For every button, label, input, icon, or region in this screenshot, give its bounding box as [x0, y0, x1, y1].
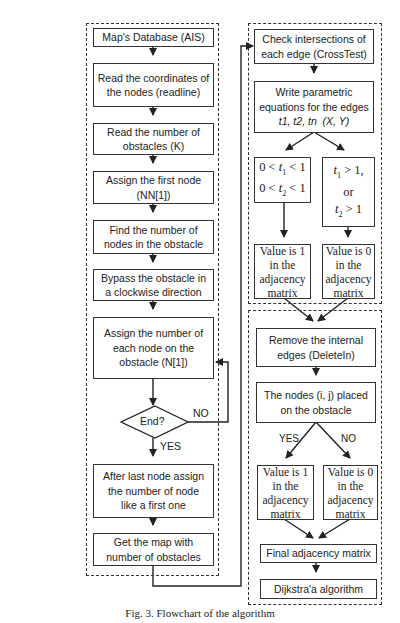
step-final-adjacency-matrix: Final adjacency matrix	[260, 544, 377, 563]
step-remove-internal-edges: Remove the internal edges (DeleteIn)	[256, 328, 376, 367]
step-assign-each-node: Assign the number of each node on the ob…	[93, 317, 214, 379]
condition-inside-line-2: 0 < t2 < 1	[259, 180, 306, 202]
step-after-last-node: After last node assign the number of nod…	[93, 464, 214, 518]
result-value-1-top: Value is 1 in the adjacency matrix	[254, 244, 311, 299]
decision-no-label: NO	[193, 407, 209, 419]
branch-no-label: NO	[341, 433, 356, 444]
branch-yes-label: YES	[279, 433, 299, 444]
result-value-0-top: Value is 0 in the adjacency matrix	[322, 244, 375, 299]
condition-inside: 0 < t1 < 1 0 < t2 < 1	[254, 157, 311, 203]
decision-label: End?	[140, 415, 165, 427]
result-value-0-bottom: Value is 0 in the adjacency matrix	[323, 465, 378, 520]
condition-outside-line-1: t1 > 1,	[333, 162, 363, 184]
condition-outside-line-2: or	[343, 184, 353, 201]
step-bypass-obstacle: Bypass the obstacle in a clockwise direc…	[93, 269, 214, 301]
step-dijkstra-algorithm: Dijkstra'a algorithm	[260, 579, 377, 599]
condition-outside-line-3: t2 > 1	[335, 201, 362, 223]
step-parametric-equations: Write parametric equations for the edges…	[254, 81, 374, 133]
condition-outside: t1 > 1, or t2 > 1	[322, 157, 375, 227]
step-read-coordinates: Read the coordinates of the nodes (readl…	[93, 63, 214, 107]
step-check-intersections: Check intersections of each edge (CrossT…	[254, 29, 374, 64]
decision-yes-label: YES	[160, 440, 181, 452]
step-read-obstacles: Read the number of obstacles (K)	[93, 123, 214, 155]
step-assign-first-node: Assign the first node (NN[1])	[93, 171, 214, 204]
figure-caption: Fig. 3. Flowchart of the algorithm	[0, 607, 400, 619]
param-eq-text: Write parametric equations for the edges…	[258, 85, 370, 129]
step-get-map: Get the map with number of obstacles	[93, 533, 214, 566]
condition-inside-line-1: 0 < t1 < 1	[259, 159, 306, 181]
step-maps-database: Map's Database (AIS)	[93, 28, 214, 47]
step-find-number-nodes: Find the number of nodes in the obstacle	[93, 220, 214, 254]
step-nodes-on-obstacle: The nodes (i, j) placed on the obstacle	[256, 382, 376, 423]
result-value-1-bottom: Value is 1 in the adjacency matrix	[257, 465, 314, 520]
